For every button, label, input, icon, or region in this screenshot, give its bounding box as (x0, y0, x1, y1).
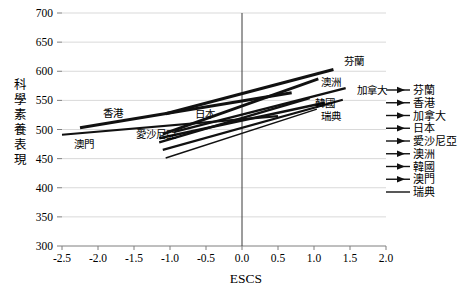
y-tick-label: 650 (36, 36, 54, 48)
x-tick-label: 2.0 (379, 252, 394, 264)
series-label-australia: 澳洲 (321, 76, 341, 88)
legend-label-macau: 澳門 (413, 173, 435, 185)
x-tick-label: 1.5 (343, 252, 358, 264)
legend-arrow-icon (397, 87, 405, 93)
y-tick-label: 350 (36, 211, 54, 223)
y-tick-label: 600 (36, 65, 54, 77)
chart-canvas: 300350400450500550600650700-2.5-2.0-1.5-… (0, 0, 467, 299)
legend-label-sweden: 瑞典 (413, 185, 435, 198)
legend-arrow-icon (397, 176, 405, 182)
series-label-hong-kong: 香港 (103, 108, 124, 119)
series-label-canada: 加拿大 (357, 84, 388, 96)
series-label-sweden: 瑞典 (321, 110, 342, 122)
x-tick-label: 0.0 (235, 252, 250, 264)
y-tick-label: 400 (36, 182, 54, 194)
x-tick-label: 0.5 (271, 252, 286, 264)
y-tick-label: 550 (36, 94, 54, 106)
legend-arrow-icon (397, 125, 405, 131)
series-line-australia (163, 79, 319, 134)
legend-label-australia: 澳洲 (413, 148, 435, 160)
legend-label-korea: 韓國 (413, 161, 435, 173)
series-label-finland: 芬蘭 (344, 55, 364, 67)
legend-label-japan: 日本 (413, 121, 435, 134)
x-axis-title: ESCS (216, 271, 276, 287)
x-tick-label: 1.0 (307, 252, 322, 264)
legend-arrow-icon (397, 138, 405, 144)
legend-arrow-icon (397, 151, 405, 157)
legend-arrow-icon (397, 100, 405, 106)
escs-science-performance-chart: 300350400450500550600650700-2.5-2.0-1.5-… (0, 0, 467, 299)
x-tick-label: -1.0 (161, 252, 179, 264)
legend-label-canada: 加拿大 (413, 109, 446, 122)
legend-arrow-icon (397, 163, 405, 169)
series-label-macau: 澳門 (74, 138, 94, 150)
y-axis-title: 科學素養表現 (9, 78, 28, 168)
y-tick-label: 500 (36, 124, 54, 136)
y-tick-label: 700 (36, 7, 54, 19)
legend-label-finland: 芬蘭 (413, 84, 435, 96)
series-label-estonia: 愛沙尼亞 (136, 128, 176, 140)
x-tick-label: -0.5 (197, 252, 215, 264)
x-tick-label: -2.5 (53, 252, 71, 264)
y-tick-label: 450 (36, 153, 54, 165)
legend-arrow-icon (397, 112, 405, 118)
legend-label-estonia: 愛沙尼亞 (413, 135, 457, 147)
x-tick-label: -1.5 (125, 252, 143, 264)
legend-label-hong-kong: 香港 (413, 97, 435, 109)
y-tick-label: 300 (36, 240, 54, 252)
x-tick-label: -2.0 (89, 252, 107, 264)
series-label-korea: 韓國 (315, 98, 335, 109)
